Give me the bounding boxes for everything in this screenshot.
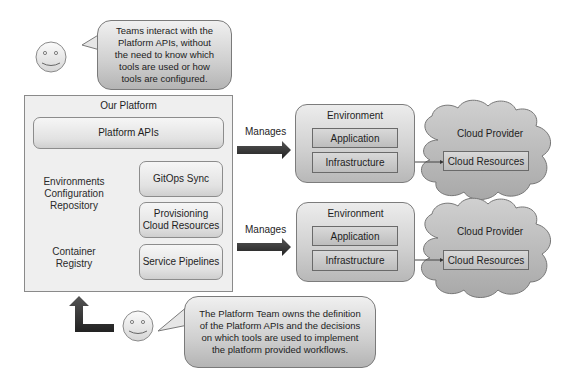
container-registry-label: Container Registry bbox=[33, 238, 115, 278]
environment-title: Environment bbox=[295, 110, 415, 121]
environments-config-repository-label: Environments Configuration Repository bbox=[33, 174, 115, 214]
ownership-arrow-icon bbox=[69, 296, 114, 332]
gitops-sync-box: GitOps Sync bbox=[139, 161, 223, 197]
manages-label: Manages bbox=[245, 126, 286, 137]
service-pipelines-box: Service Pipelines bbox=[139, 244, 223, 280]
manages-label: Manages bbox=[245, 224, 286, 235]
cloud-provider-icon bbox=[421, 198, 550, 297]
cloud-resources-box: Cloud Resources bbox=[443, 151, 529, 171]
cloud-resources-box: Cloud Resources bbox=[443, 250, 529, 270]
teams-callout: Teams interact with the Platform APIs, w… bbox=[97, 20, 232, 90]
platform-team-callout: The Platform Team owns the definition of… bbox=[184, 296, 376, 368]
provisioning-cloud-resources-box: Provisioning Cloud Resources bbox=[139, 202, 223, 238]
manages-arrow-icon bbox=[237, 141, 291, 159]
platform-apis-box: Platform APIs bbox=[33, 117, 224, 149]
application-box: Application bbox=[312, 128, 398, 148]
cloud-provider-title: Cloud Provider bbox=[440, 226, 540, 237]
cloud-provider-icon bbox=[421, 100, 550, 199]
platform-team-smiley-icon bbox=[123, 311, 153, 341]
teams-smiley-icon bbox=[36, 42, 66, 72]
cloud-provider-title: Cloud Provider bbox=[440, 128, 540, 139]
application-box: Application bbox=[312, 226, 398, 246]
infrastructure-box: Infrastructure bbox=[312, 250, 398, 271]
infrastructure-box: Infrastructure bbox=[312, 152, 398, 173]
platform-title: Our Platform bbox=[24, 100, 233, 111]
manages-arrow-icon bbox=[237, 238, 291, 256]
environment-title: Environment bbox=[296, 208, 415, 219]
